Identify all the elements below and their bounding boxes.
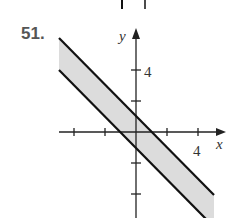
x-axis-label: x (215, 136, 223, 152)
y-tick-label: 4 (144, 64, 152, 80)
graph: y 4 x 4 (0, 0, 249, 218)
x-axis-arrow-icon (216, 128, 226, 136)
x-tick-label: 4 (193, 143, 201, 159)
y-axis-label: y (117, 28, 126, 44)
y-axis-arrow-icon (132, 28, 140, 39)
